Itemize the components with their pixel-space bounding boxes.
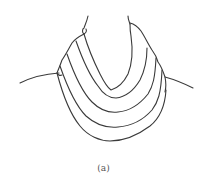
scarf-fold-5-outer: [57, 73, 166, 141]
neck-left-line: [83, 16, 89, 34]
figure-caption: (a): [0, 163, 207, 173]
left-shoulder-line: [20, 73, 59, 83]
scarf-fold-1: [84, 24, 132, 90]
right-shoulder-line: [165, 77, 193, 88]
scarf-fold-3: [67, 54, 156, 112]
scarf-collar-edge-right: [130, 23, 166, 92]
scarf-illustration: [0, 0, 207, 187]
